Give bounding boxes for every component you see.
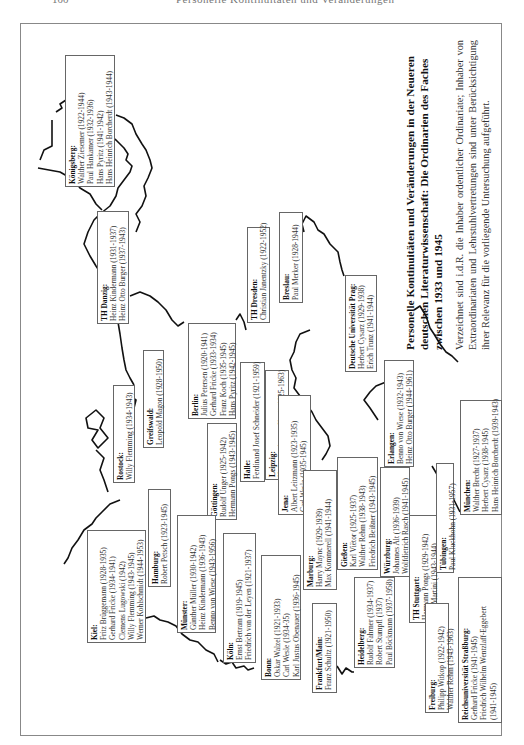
university-name: TH Danzig: [100,216,109,321]
professor-entry: Walther Ziesemer (1922-1944) [77,60,86,184]
university-name: TH Stuttgart: [412,520,421,620]
professor-entry: Hermann Pongs (1943-1945) [228,428,237,517]
professor-entry: Fritz Brüggemann (1928-1935) [99,535,108,640]
professor-entry: Ferdinand Josef Schneider (1921-1959) [252,367,261,479]
professor-entry: (1941-1945) [489,582,498,720]
university-box-muenster: Münster:Günther Müller (1930-1942)Heinz … [177,515,216,633]
university-box-erlangen: Erlangen:Benno von Wiese (1932-1943)Hein… [384,360,414,467]
university-name: Bonn: [264,560,273,677]
university-name: Tübingen: [439,468,448,570]
university-box-content: Königsberg:Walther Ziesemer (1922-1944)P… [66,56,116,188]
professor-entry: Willy Flemming (1943-1945) [127,535,136,640]
university-name: Heidelberg: [357,582,366,665]
university-box-content: Würzburg:Johannes Alt (1936-1939)Wolfdie… [381,468,411,578]
professor-entry: Heinz Kindermann (1936-1943) [198,520,207,630]
university-box-content: TH Dresden:Christian Janentzky (1922-195… [248,228,271,324]
university-name: Hamburg: [151,494,160,584]
university-box-heidelberg: Heidelberg:Rudolf Fahrner (1934-1937)Rob… [354,577,395,668]
university-box-kiel: Kiel:Fritz Brüggemann (1928-1935)Gerhard… [87,530,146,643]
professor-entry: Hans Pyritz (1941-1942) [96,60,105,184]
border-poland-mid [236,314,246,330]
university-box-bonn: Bonn:Oskar Walzel (1921-1933)Carl Wesle … [261,555,301,680]
professor-entry: Herbert Cysarz (1929-1938) [357,280,366,369]
professor-entry: Harry Maync (1929-1939) [315,475,324,587]
professor-entry: Gerhard Fricke (1934-1941) [108,535,117,640]
university-name: Leipzig: [268,375,277,477]
university-box-frankfurt: Frankfurt/Main:Franz Schultz (1921-1950) [312,603,337,693]
university-box-content: Kiel:Fritz Brüggemann (1928-1935)Gerhard… [88,531,147,644]
university-box-berlin: Berlin:Julius Petersen (1920-1941)Gerhar… [188,323,236,419]
professor-entry: Günther Müller (1930-1942) [189,520,198,630]
professor-entry: Heinz Otto Burger (1944-1961) [405,365,414,464]
university-box-koenigsberg: Königsberg:Walther Ziesemer (1922-1944)P… [65,55,115,187]
university-box-greifswald: Greifswald:Leopold Magon (1928-1950) [143,350,164,448]
university-name: Rostock: [116,390,125,480]
university-name: Greifswald: [146,355,155,445]
university-name: Frankfurt/Main: [315,608,324,690]
university-box-wuerzburg: Würzburg:Johannes Alt (1936-1939)Wolfdie… [380,467,410,577]
university-name: Kiel: [90,535,99,640]
professor-entry: Heinz Otto Burger (1937-1943) [118,216,127,321]
university-box-koeln: Köln:Ernst Bertram (1919-1945)Friedrich … [223,533,256,663]
university-name: Deutsche Universität Prag: [348,280,357,369]
university-name: Erlangen: [387,365,396,464]
professor-entry: Karl Justus Obenauer (1936-1945) [292,560,301,677]
professor-entry: Ernst Bertram (1919-1945) [235,538,244,660]
university-name: Berlin: [191,328,200,416]
professor-entry: Clemens Lugowski (1942) [118,535,127,640]
professor-entry: Philipp Witkop (1922-1942) [437,608,446,710]
university-name: Münster: [180,520,189,630]
border-west-frankfurt [337,666,354,674]
professor-entry: Paul Hankamer (1932-1936) [86,60,95,184]
university-name: Jena: [281,400,290,512]
professor-entry: Christian Janentzky (1922-1952) [259,232,268,320]
professor-entry: Walther Rehm (1938-1943) [358,462,367,567]
university-box-content: Bonn:Oskar Walzel (1921-1933)Carl Wesle … [262,556,302,681]
university-name: Würzburg: [383,472,392,574]
university-name: Freiburg: [428,608,437,710]
university-box-muenchen: München:Walther Brecht (1927-1937)Herber… [460,400,502,515]
university-box-content: Halle:Ferdinand Josef Schneider (1921-19… [241,363,266,483]
island-ruegen [86,410,108,448]
professor-entry: Herbert Cysarz (1938-1945) [481,405,490,512]
university-box-content: Gießen:Karl Viëtor (1925-1937)Walther Re… [338,458,379,571]
figure-caption: Personelle Kontinuitäten und Veränderung… [404,40,492,350]
coastline-hel [40,120,52,160]
university-name: Marburg: [306,475,315,587]
professor-entry: Albert Leitzmann (1923-1935) [290,400,299,512]
university-box-tuebingen: Tübingen:Paul Kluckhohn (1931-1957) [436,463,454,573]
university-box-content: Erlangen:Benno von Wiese (1932-1943)Hein… [385,361,415,468]
professor-entry: Paul Merker (1928-1944) [291,217,300,300]
university-box-breslau: Breslau:Paul Merker (1928-1944) [279,212,303,303]
university-box-content: München:Walther Brecht (1927-1937)Herber… [461,401,503,516]
university-box-giessen: Gießen:Karl Viëtor (1925-1937)Walther Re… [337,457,378,570]
university-name: Köln: [226,538,235,660]
university-name: Halle: [243,367,252,479]
professor-entry: Walther Rehm (1943-1963) [446,608,455,710]
university-box-content: Freiburg:Philipp Witkop (1922-1942)Walth… [426,604,450,714]
university-box-dresden: TH Dresden:Christian Janentzky (1922-195… [247,227,270,323]
university-box-content: Breslau:Paul Merker (1928-1944) [280,213,304,304]
university-box-freiburg: Freiburg:Philipp Witkop (1922-1942)Walth… [425,603,449,713]
professor-entry: Walther Brecht (1927-1937) [472,405,481,512]
university-box-content: Köln:Ernst Bertram (1919-1945)Friedrich … [224,534,257,664]
border-silesia [302,216,344,276]
professor-entry: Willy Flemming (1934-1943) [125,390,134,480]
professor-entry: Friedrich Beißner (1943-1945) [368,462,377,567]
professor-entry: Franz Schultz (1921-1950) [324,608,333,690]
professor-entry: Leopold Magon (1928-1950) [155,355,164,445]
professor-entry: Rudolf Unger (1925-1942) [219,428,228,517]
professor-entry: Hans Pyritz (1942-1945) [228,328,237,416]
university-box-halle: Halle:Ferdinand Josef Schneider (1921-19… [240,362,265,482]
university-box-content: Greifswald:Leopold Magon (1928-1950) [144,351,165,449]
university-name: Gießen: [340,462,349,567]
professor-entry: Rudolf Fahrner (1934-1937) [366,582,375,665]
university-box-danzig: TH Danzig:Heinz Kindermann (1931-1937)He… [97,211,129,324]
university-box-content: Rostock:Willy Flemming (1934-1943) [114,386,136,484]
border-poland-north [130,292,184,326]
university-name: Breslau: [282,217,291,300]
professor-entry: Paul Böckmann (1937-1958) [385,582,394,665]
professor-entry: Max Kommerell (1941-1944) [324,475,333,587]
university-box-content: Heidelberg:Rudolf Fahrner (1934-1937)Rob… [355,578,396,669]
university-box-strassburg: Reichsuniversität Straßburg:Gerhard Fric… [458,577,502,723]
